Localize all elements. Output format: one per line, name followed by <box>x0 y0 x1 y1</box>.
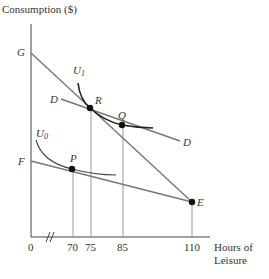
label-U1: U1 <box>73 64 85 78</box>
label-D-right: D <box>182 136 191 148</box>
label-D-left: D <box>49 93 58 105</box>
tick-85: 85 <box>117 241 129 253</box>
y-axis-label: Consumption ($) <box>2 3 77 16</box>
point-E <box>189 199 195 205</box>
point-R <box>87 105 93 111</box>
point-Q <box>119 122 125 128</box>
budget-line-FE <box>31 161 192 202</box>
x-axis-label-line1: Hours of <box>214 241 253 253</box>
label-R: R <box>94 94 102 106</box>
point-P <box>69 166 75 172</box>
label-G: G <box>17 46 25 58</box>
tick-110: 110 <box>184 241 201 253</box>
label-P: P <box>69 152 77 164</box>
tick-origin: 0 <box>28 241 34 253</box>
label-U0: U0 <box>36 127 48 141</box>
labor-leisure-diagram: Consumption ($) G F D D U1 U0 R Q P E 0 … <box>0 0 269 279</box>
label-Q: Q <box>118 109 126 121</box>
label-E: E <box>196 196 204 208</box>
tick-75: 75 <box>85 241 97 253</box>
budget-line-GE <box>31 53 192 202</box>
tick-70: 70 <box>67 241 79 253</box>
x-axis-label-line2: Leisure <box>214 254 247 266</box>
label-F: F <box>17 155 25 167</box>
